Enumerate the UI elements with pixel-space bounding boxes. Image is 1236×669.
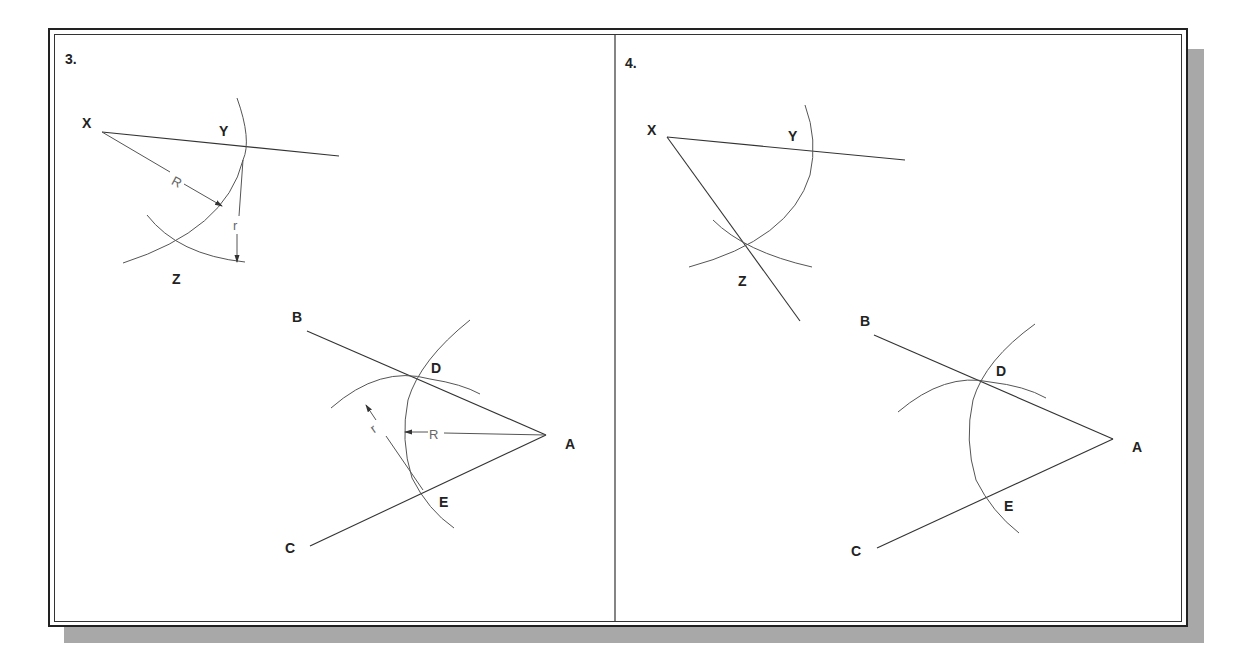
panel-number: 4. — [625, 55, 637, 71]
label-e: E — [439, 494, 448, 510]
dim-label-r: r — [233, 218, 238, 233]
panel-number: 3. — [65, 51, 77, 67]
label-z: Z — [172, 271, 181, 287]
label-a: A — [1132, 439, 1142, 455]
label-x: X — [647, 122, 657, 138]
label-b: B — [860, 313, 870, 329]
geometry-figure: 3. R r X Y Z — [0, 0, 1236, 669]
frame-border — [49, 29, 1187, 626]
label-c: C — [285, 540, 295, 556]
label-e: E — [1004, 498, 1013, 514]
label-a: A — [565, 436, 575, 452]
label-d: D — [996, 363, 1006, 379]
label-b: B — [292, 309, 302, 325]
dim-label-R: R — [429, 427, 438, 442]
label-z: Z — [738, 273, 747, 289]
label-y: Y — [219, 123, 229, 139]
label-c: C — [851, 543, 861, 559]
label-y: Y — [788, 128, 798, 144]
label-x: X — [82, 115, 92, 131]
label-d: D — [431, 360, 441, 376]
